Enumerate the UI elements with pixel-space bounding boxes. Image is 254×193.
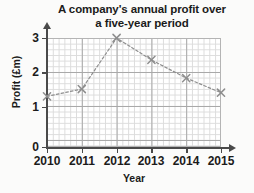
chart-title-line-2: a five-year period bbox=[38, 17, 246, 31]
plot-border bbox=[47, 38, 221, 147]
x-axis-title: Year bbox=[47, 172, 221, 184]
x-tick-label-2013: 2013 bbox=[131, 154, 171, 168]
y-tick-2 bbox=[42, 72, 47, 73]
y-tick-label-3: 3 bbox=[15, 31, 39, 45]
chart-title-line-1: A company's annual profit over bbox=[38, 3, 246, 17]
x-tick-2012 bbox=[117, 148, 118, 153]
x-tick-2015 bbox=[221, 148, 222, 153]
x-tick-label-2014: 2014 bbox=[166, 154, 206, 168]
y-axis-title: Profit (£m) bbox=[10, 44, 22, 120]
chart-figure: A company's annual profit over a five-ye… bbox=[0, 0, 254, 193]
x-tick-label-2011: 2011 bbox=[62, 154, 102, 168]
x-tick-2011 bbox=[82, 148, 83, 153]
plot-area bbox=[47, 38, 221, 147]
y-tick-1 bbox=[42, 107, 47, 108]
x-tick-2010 bbox=[47, 148, 48, 153]
x-tick-2014 bbox=[186, 148, 187, 153]
y-tick-3 bbox=[42, 38, 47, 39]
y-axis-arrow-icon bbox=[43, 22, 51, 29]
y-tick-label-0: 0 bbox=[15, 140, 39, 154]
x-tick-label-2015: 2015 bbox=[201, 154, 241, 168]
x-axis-arrow-icon bbox=[229, 144, 236, 152]
x-tick-label-2010: 2010 bbox=[27, 154, 67, 168]
x-axis-line bbox=[46, 147, 230, 149]
chart-title: A company's annual profit over a five-ye… bbox=[38, 3, 246, 30]
y-axis-line bbox=[46, 28, 48, 149]
x-tick-2013 bbox=[151, 148, 152, 153]
